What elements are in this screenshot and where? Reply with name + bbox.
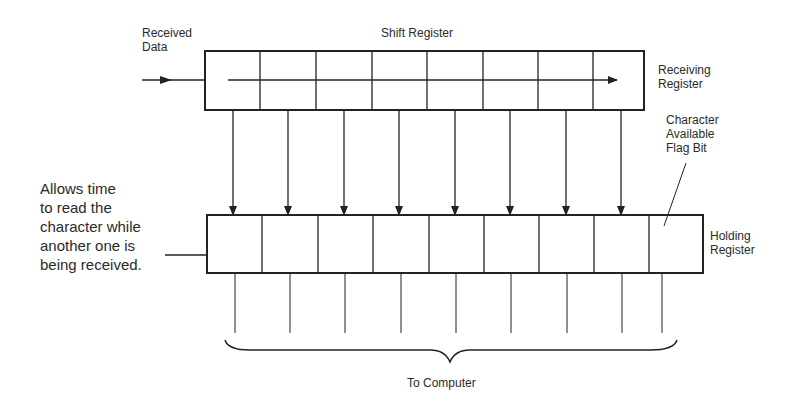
label-line: to read the: [40, 198, 142, 217]
label-line: Register: [710, 243, 755, 257]
label-line: Flag Bit: [666, 141, 719, 155]
receiving-register-label: Receiving Register: [658, 63, 711, 91]
label-line: Holding: [710, 229, 755, 243]
holding-register: [207, 215, 703, 273]
received-data-arrow: [142, 76, 205, 84]
flag-bit-pointer: [664, 163, 686, 226]
transfer-arrows: [233, 110, 621, 215]
label-line: Character: [666, 113, 719, 127]
label-line: Receiving: [658, 63, 711, 77]
note-label: Allows time to read the character while …: [40, 179, 142, 274]
flag-bit-label: Character Available Flag Bit: [666, 113, 719, 155]
label-line: Available: [666, 127, 719, 141]
received-data-label: Received Data: [142, 26, 192, 54]
holding-register-label: Holding Register: [710, 229, 755, 257]
label-line: another one is: [40, 236, 142, 255]
receiving-register: [205, 51, 644, 110]
label-line: Data: [142, 40, 192, 54]
label-line: Allows time: [40, 179, 142, 198]
to-computer-label: To Computer: [407, 376, 476, 390]
shift-register-label: Shift Register: [381, 26, 453, 40]
output-lines: [235, 273, 662, 333]
output-brace: [225, 340, 677, 362]
label-line: Register: [658, 77, 711, 91]
label-line: character while: [40, 217, 142, 236]
label-line: being received.: [40, 255, 142, 274]
label-line: Received: [142, 26, 192, 40]
